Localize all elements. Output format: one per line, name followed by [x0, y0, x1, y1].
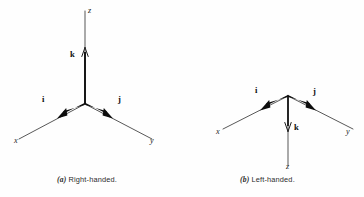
panel-a-vector-i-arrowhead: [57, 108, 67, 119]
panel-a-axis-label-x: x: [14, 136, 18, 145]
panel-a-caption-tag: (a): [57, 175, 66, 184]
panel-a-axis-label-y: y: [150, 136, 154, 145]
panel-a-vector-j: [85, 103, 113, 119]
figure-coordinate-handedness: z x y k i j z x y k i j (a) Right-handed…: [0, 0, 364, 197]
panel-b-vector-i-arrowhead: [260, 100, 270, 111]
panel-a-right-handed: [19, 11, 152, 139]
panel-b-caption: (b) Left-handed.: [240, 175, 295, 184]
panel-a-axis-label-z: z: [88, 6, 91, 15]
panel-a-axis-y-line: [85, 104, 152, 139]
panel-a-vector-label-k: k: [70, 49, 75, 59]
panel-b-vector-j-arrowhead: [306, 100, 316, 111]
panel-a-vector-k: [82, 48, 88, 105]
panel-a-vector-label-j: j: [118, 94, 121, 104]
panel-a-axis-x-line: [19, 104, 85, 139]
panel-b-axis-x-line: [223, 96, 288, 129]
panel-b-vector-label-i: i: [255, 86, 257, 95]
panel-b-caption-tag: (b): [240, 175, 249, 184]
panel-a-caption-text: Right-handed.: [69, 175, 117, 184]
figure-vector-graphics: [0, 0, 364, 197]
panel-b-vector-label-k: k: [294, 122, 299, 132]
panel-b-axis-label-x: x: [216, 127, 220, 136]
panel-b-caption-text: Left-handed.: [252, 175, 295, 184]
panel-b-axis-label-z: z: [286, 162, 289, 171]
panel-a-vector-label-i: i: [42, 94, 44, 104]
panel-a-vector-j-arrowhead: [103, 108, 113, 119]
panel-a-vector-i: [57, 103, 85, 119]
panel-b-left-handed: [223, 95, 353, 165]
panel-a-caption: (a) Right-handed.: [57, 175, 117, 184]
panel-b-axis-label-y: y: [346, 127, 350, 136]
panel-b-vector-label-j: j: [313, 86, 316, 96]
